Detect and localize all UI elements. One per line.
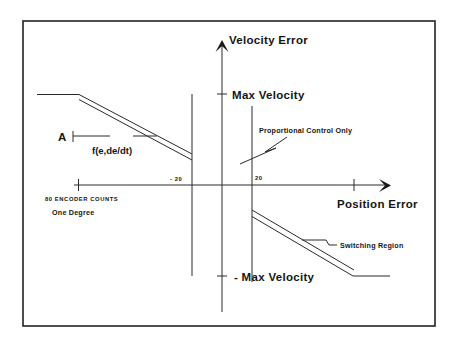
- neg-20-tick-label: - 20: [170, 176, 182, 182]
- encoder-counts-label: 80 ENCODER COUNTS: [45, 196, 118, 202]
- velocity-error-label: Velocity Error: [229, 34, 308, 46]
- position-error-label: Position Error: [337, 198, 418, 210]
- neg-max-velocity-label: - Max Velocity: [234, 271, 315, 283]
- max-velocity-label: Max Velocity: [232, 89, 305, 101]
- function-label: f(e,de/dt): [92, 145, 132, 156]
- diagram-frame: [23, 21, 435, 326]
- proportional-control-label: Proportional Control Only: [259, 126, 352, 135]
- one-degree-label: One Degree: [52, 208, 94, 217]
- phase-plane-diagram: Velocity Error Max Velocity - Max Veloci…: [0, 0, 457, 344]
- a-label: A: [58, 131, 67, 143]
- switching-region-label: Switching Region: [340, 241, 404, 250]
- pos-20-tick-label: 20: [255, 175, 263, 181]
